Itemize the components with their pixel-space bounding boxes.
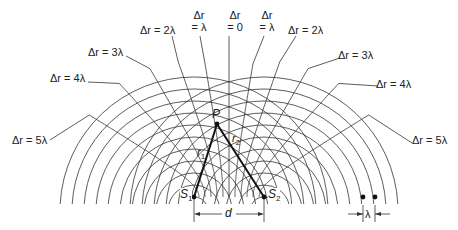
label-dr-1-left: Δr = λ [188,9,210,33]
label-dr-5-left: Δr = 5λ [12,134,47,146]
label-dr-4-left: Δr = 4λ [50,72,85,84]
label-dr-3-right: Δr = 3λ [338,49,373,61]
arrow-right-icon [258,212,264,216]
label-r2: r2 [232,132,240,149]
label-dr-2-left: Δr = 2λ [140,24,175,36]
label-dr-1-right: Δr = λ [256,9,278,33]
interference-diagram: Δr = 5λ Δr = 4λ Δr = 3λ Δr = 2λ Δr = λ Δ… [0,0,458,230]
label-dr-2-right: Δr = 2λ [288,24,323,36]
label-dr-0: Δr = 0 [224,9,246,33]
path-difference-hyperbolas [89,59,368,197]
interference-pattern-svg [0,0,458,230]
label-separation-d: d [225,207,232,219]
label-dr-3-left: Δr = 3λ [88,46,123,58]
label-dr-4-right: Δr = 4λ [376,78,411,90]
label-s2: S2 [268,188,280,205]
label-r1: r1 [197,146,205,163]
label-point-p: P [212,108,220,120]
label-wavelength: λ [365,208,371,220]
label-s1: S1 [180,188,192,205]
label-dr-5-right: Δr = 5λ [412,134,447,146]
arrow-left-icon [194,212,200,216]
